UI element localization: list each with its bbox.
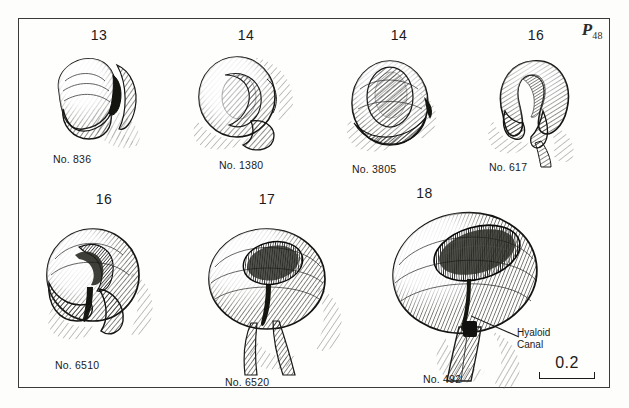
figure-panel-5: 16 [29, 191, 179, 376]
stage-number: 16 [29, 191, 179, 207]
stage-number: 14 [171, 27, 321, 43]
specimen-number: No. 1380 [219, 159, 263, 171]
annotation-line-2: Canal [517, 339, 550, 351]
specimen-number: No. 6520 [225, 376, 269, 388]
figure-drawing-optic-cup-horseshoe [473, 49, 599, 167]
plate-frame: P48 13 [18, 18, 610, 388]
figure-panel-6: 17 [187, 191, 372, 391]
specimen-number: No. 492 [423, 373, 461, 385]
figure-panel-2: 14 [171, 27, 321, 179]
scale-bar: 0.2 [539, 354, 595, 379]
figure-panel-4: 16 [471, 27, 601, 179]
figure-drawing-optic-vesicle-lens-placode [338, 53, 463, 165]
stage-number: 17 [187, 191, 347, 207]
specimen-number: No. 6510 [55, 359, 99, 371]
specimen-number: No. 617 [489, 161, 527, 173]
stage-number: 18 [367, 185, 482, 201]
stage-number: 13 [29, 27, 169, 43]
annotation-line-1: Hyaloid [517, 327, 550, 339]
specimen-number: No. 836 [53, 153, 91, 165]
figure-drawing-optic-vesicle-invaginating [181, 49, 311, 164]
scale-bar-value: 0.2 [539, 354, 595, 371]
specimen-number: No. 3805 [352, 163, 396, 175]
illustration-plate: P48 13 [0, 0, 629, 408]
hyaloid-canal-annotation: Hyaloid Canal [517, 327, 550, 350]
stage-number: 14 [324, 27, 474, 43]
figure-panel-3: 14 [324, 27, 474, 179]
figure-drawing-optic-cup-choroid-fissure [35, 213, 175, 353]
figure-panel-1: 13 [29, 27, 169, 172]
figure-drawing-optic-vesicle-lateral [35, 47, 165, 157]
figure-drawing-optic-cup-lens-vesicle [195, 213, 370, 378]
scale-bar-rule [539, 372, 595, 379]
stage-number: 16 [471, 27, 601, 43]
